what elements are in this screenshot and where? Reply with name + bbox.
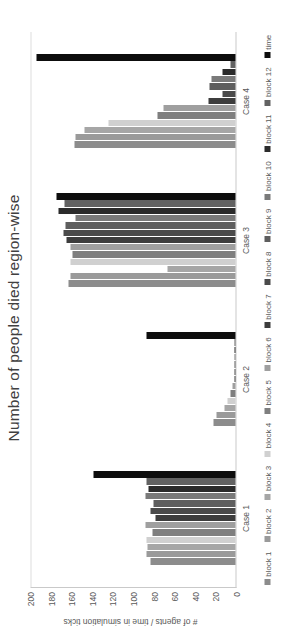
bar-block-9-Case-1	[153, 500, 235, 506]
bar-block-5-Case-4	[157, 112, 235, 118]
bar-block-3-Case-2	[224, 405, 235, 411]
legend-item-block-8[interactable]: block 8	[263, 251, 272, 285]
legend-label: block 2	[263, 509, 272, 534]
bar-time-Case-3	[56, 193, 235, 199]
bar-block-2-Case-2	[216, 412, 235, 418]
y-tick-200: 200	[25, 592, 35, 634]
legend-item-block-9[interactable]: block 9	[263, 209, 272, 243]
y-tick-80: 80	[149, 592, 159, 634]
legend-swatch-icon	[264, 100, 270, 106]
legend-item-block-7[interactable]: block 7	[263, 294, 272, 328]
bar-time-Case-2	[146, 332, 235, 338]
chart-legend: block 1block 2block 3block 4block 5block…	[258, 32, 276, 588]
bar-block-10-Case-2	[234, 354, 235, 360]
bar-block-7-Case-4	[208, 98, 235, 104]
legend-swatch-icon	[264, 146, 270, 152]
bar-block-6-Case-2	[232, 383, 235, 389]
chart-container: Number of people died region-wise 200180…	[0, 0, 285, 636]
legend-item-block-2[interactable]: block 2	[263, 509, 272, 543]
y-tick-20: 20	[210, 592, 220, 634]
rotated-chart-stage: Number of people died region-wise 200180…	[0, 0, 285, 636]
bar-block-4-Case-1	[146, 537, 235, 543]
bar-block-3-Case-3	[167, 266, 235, 272]
y-axis-title: # of agents / time in simulation ticks	[30, 617, 230, 627]
bar-time-Case-4	[36, 54, 235, 60]
bar-block-4-Case-4	[108, 120, 235, 126]
legend-label: block 5	[263, 380, 272, 405]
category-label-case-3: Case 3	[240, 171, 250, 310]
bar-block-2-Case-1	[146, 551, 235, 557]
bar-block-8-Case-1	[150, 508, 235, 514]
bar-block-7-Case-1	[155, 515, 235, 521]
bar-block-5-Case-2	[230, 390, 235, 396]
legend-label: block 10	[263, 161, 272, 191]
legend-item-time[interactable]: time	[263, 35, 272, 59]
chart-title: Number of people died region-wise	[4, 0, 22, 636]
bar-block-1-Case-4	[74, 141, 235, 147]
legend-item-block-3[interactable]: block 3	[263, 466, 272, 500]
bar-block-6-Case-3	[70, 244, 235, 250]
legend-label: block 7	[263, 294, 272, 319]
bar-block-7-Case-3	[66, 237, 235, 243]
y-tick-140: 140	[87, 592, 97, 634]
bar-block-2-Case-3	[70, 273, 235, 279]
bar-block-9-Case-2	[234, 361, 235, 367]
legend-label: block 4	[263, 423, 272, 448]
bar-time-Case-1	[93, 471, 235, 477]
bar-block-4-Case-2	[227, 398, 235, 404]
bar-block-10-Case-3	[75, 215, 235, 221]
bar-block-5-Case-3	[72, 251, 235, 257]
legend-label: block 6	[263, 337, 272, 362]
bar-block-9-Case-3	[65, 222, 235, 228]
legend-item-block-12[interactable]: block 12	[263, 67, 272, 105]
y-tick-180: 180	[46, 592, 56, 634]
legend-swatch-icon	[264, 322, 270, 328]
category-label-case-4: Case 4	[240, 32, 250, 171]
y-tick-120: 120	[107, 592, 117, 634]
legend-swatch-icon	[264, 536, 270, 542]
bar-block-12-Case-3	[64, 200, 235, 206]
bar-block-11-Case-2	[234, 347, 235, 353]
y-tick-40: 40	[190, 592, 200, 634]
bar-block-5-Case-1	[152, 529, 235, 535]
chart-page: Number of people died region-wise 200180…	[0, 0, 285, 636]
bar-block-3-Case-1	[147, 544, 235, 550]
legend-item-block-6[interactable]: block 6	[263, 337, 272, 371]
legend-swatch-icon	[264, 365, 270, 371]
legend-item-block-4[interactable]: block 4	[263, 423, 272, 457]
plot-area	[30, 32, 236, 588]
bar-block-12-Case-4	[230, 61, 235, 67]
bars-layer	[30, 32, 235, 587]
category-label-case-2: Case 2	[240, 310, 250, 449]
bar-block-8-Case-4	[222, 91, 235, 97]
bar-block-2-Case-4	[75, 134, 235, 140]
legend-swatch-icon	[264, 236, 270, 242]
bar-block-11-Case-1	[148, 486, 235, 492]
legend-item-block-10[interactable]: block 10	[263, 161, 272, 199]
bar-block-8-Case-2	[234, 369, 235, 375]
legend-swatch-icon	[264, 451, 270, 457]
legend-label: time	[263, 35, 272, 50]
bar-block-10-Case-1	[145, 493, 235, 499]
legend-label: block 3	[263, 466, 272, 491]
legend-item-block-11[interactable]: block 11	[263, 115, 272, 153]
legend-swatch-icon	[264, 408, 270, 414]
bar-block-1-Case-2	[213, 419, 235, 425]
legend-item-block-1[interactable]: block 1	[263, 551, 272, 585]
legend-label: block 9	[263, 209, 272, 234]
bar-block-7-Case-2	[234, 376, 235, 382]
y-tick-60: 60	[169, 592, 179, 634]
bar-block-6-Case-1	[145, 522, 235, 528]
legend-label: block 11	[263, 115, 272, 144]
bar-block-3-Case-4	[84, 127, 235, 133]
bar-block-11-Case-4	[222, 69, 235, 75]
legend-label: block 12	[263, 67, 272, 97]
legend-item-block-5[interactable]: block 5	[263, 380, 272, 414]
legend-swatch-icon	[264, 494, 270, 500]
bar-block-11-Case-3	[58, 208, 235, 214]
y-tick-100: 100	[128, 592, 138, 634]
bar-block-9-Case-4	[209, 83, 235, 89]
legend-swatch-icon	[264, 52, 270, 58]
bar-block-6-Case-4	[163, 105, 235, 111]
bar-block-4-Case-3	[70, 259, 235, 265]
